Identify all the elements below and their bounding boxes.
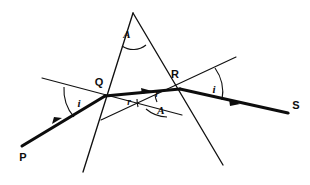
point-p-label: P (19, 151, 26, 163)
point-s-label: S (292, 99, 299, 111)
angle-i-arc-r (215, 68, 223, 100)
angle-a-label-r: A (156, 104, 164, 116)
prism-diagram-svg: A Q R P S i r r A i (0, 0, 310, 185)
point-r-label: R (171, 68, 179, 80)
prism-refraction-figure: A Q R P S i r r A i (0, 0, 310, 185)
angle-r-label-q: r (127, 97, 131, 107)
angle-i-label-q: i (77, 97, 81, 109)
angle-i-arc-q (64, 87, 74, 117)
apex-angle-arc (122, 45, 146, 50)
angle-i-label-r: i (212, 83, 216, 95)
angle-r-label-r: r (155, 89, 159, 99)
apex-angle-label: A (122, 28, 130, 40)
incident-ray (22, 96, 105, 146)
emergent-ray (180, 89, 288, 113)
normal-at-r (101, 57, 236, 120)
point-q-label: Q (95, 76, 104, 88)
